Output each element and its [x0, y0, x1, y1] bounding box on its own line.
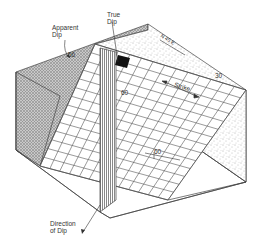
apparent-dip-label: Apparent Dip — [52, 24, 78, 38]
right-wall-angle: 30 — [215, 72, 222, 79]
plane-dip-label: 60 — [154, 148, 161, 155]
apparent-dip-angle: 56 — [68, 51, 75, 58]
direction-of-dip-arrow — [83, 205, 100, 232]
true-dip-label: True Dip — [107, 11, 120, 25]
true-dip-angle: 60 — [121, 89, 128, 96]
vertical-dip-section — [100, 48, 116, 212]
block-diagram-svg — [0, 0, 258, 246]
strike-dip-block-diagram: True Dip Apparent Dip 56 60 30 Strike 60… — [0, 0, 258, 246]
direction-of-dip-label: Direction of Dip — [50, 220, 76, 234]
